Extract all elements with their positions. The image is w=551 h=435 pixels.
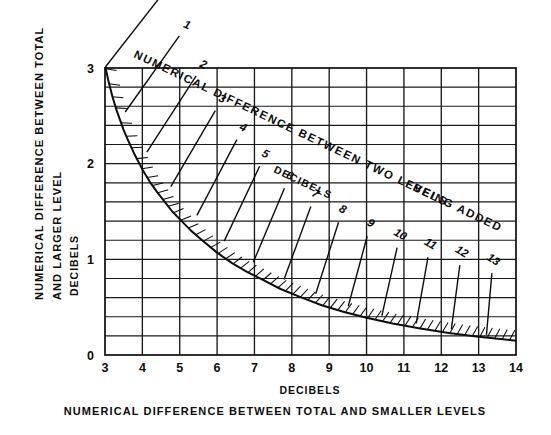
y-axis-label-units: DECIBELS — [68, 235, 80, 296]
x-tick-label: 8 — [288, 361, 295, 375]
x-tick-label: 12 — [434, 361, 448, 375]
y-axis-label-line2: AND LARGER LEVEL — [51, 171, 63, 300]
x-axis-label-main: NUMERICAL DIFFERENCE BETWEEN TOTAL AND S… — [64, 405, 487, 417]
x-tick-label: 14 — [509, 361, 523, 375]
x-tick-label: 7 — [251, 361, 258, 375]
x-tick-label: 5 — [176, 361, 183, 375]
y-tick-label: 2 — [87, 157, 94, 171]
x-tick-label: 9 — [326, 361, 333, 375]
decibel-addition-nomograph: 012345678910111213 34567891011121314 012… — [0, 0, 551, 435]
x-axis-label-units: DECIBELS — [279, 384, 340, 396]
x-tick-label: 13 — [472, 361, 486, 375]
y-axis-label-line1: NUMERICAL DIFFERENCE BETWEEN TOTAL — [33, 27, 45, 300]
y-tick-label: 1 — [87, 253, 94, 267]
x-tick-label: 3 — [102, 361, 109, 375]
y-tick-label: 3 — [87, 62, 94, 76]
y-tick-label: 0 — [87, 349, 94, 363]
x-tick-label: 10 — [360, 361, 374, 375]
x-tick-label: 6 — [214, 361, 221, 375]
x-tick-label: 4 — [139, 361, 146, 375]
x-tick-label: 11 — [397, 361, 410, 375]
